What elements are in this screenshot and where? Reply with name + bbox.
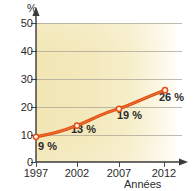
y-axis-arrow-icon: [32, 7, 39, 16]
x-axis-arrow-icon: [179, 158, 188, 165]
line-chart: 50 40 30 20 10 0 % 1997 2002 2007 2012 A…: [0, 0, 193, 191]
data-point-2012: [162, 88, 167, 93]
series-line: [36, 90, 165, 137]
data-point-1997: [33, 134, 38, 139]
data-point-2007: [116, 106, 121, 111]
chart-vector-overlay: [0, 0, 193, 191]
data-point-2002: [74, 123, 79, 128]
